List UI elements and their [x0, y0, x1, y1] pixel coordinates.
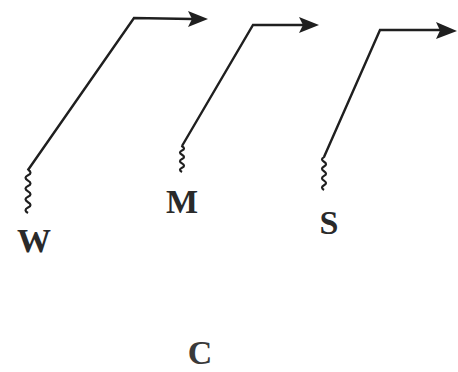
- wavy-segment-w: [26, 170, 31, 213]
- arrow-line-w: [28, 18, 192, 170]
- wavy-segment-m: [180, 146, 184, 172]
- label-m: M: [166, 183, 198, 220]
- path-m: M: [166, 17, 319, 220]
- label-s: S: [320, 204, 339, 241]
- label-c: C: [188, 334, 213, 371]
- path-s: S: [320, 22, 457, 241]
- path-w: W: [17, 11, 208, 259]
- arrow-line-s: [324, 30, 440, 157]
- diagram-canvas: W M S C: [0, 0, 458, 372]
- wavy-segment-s: [322, 157, 326, 190]
- label-w: W: [17, 222, 51, 259]
- arrow-line-m: [182, 25, 303, 146]
